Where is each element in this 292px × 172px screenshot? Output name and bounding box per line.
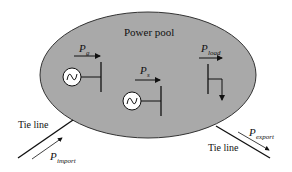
pexport-symbol: P (248, 126, 256, 138)
pload-subscript: load (208, 49, 221, 57)
tie-line-label: Tie line (208, 142, 239, 153)
pexport-subscript: export (256, 133, 275, 141)
pimport-symbol: P (49, 150, 57, 162)
tie-line-export: Tie line P export (208, 126, 275, 158)
pool-label: Power pool (124, 26, 174, 38)
tie-line-label: Tie line (18, 119, 49, 130)
pimport-subscript: import (57, 157, 77, 165)
pg-symbol: P (78, 42, 86, 54)
tie-line-import: Tie line P import (18, 119, 77, 165)
power-pool-diagram: Power pool P g P s P load Tie line P imp… (0, 0, 292, 172)
ps-subscript: s (147, 71, 150, 79)
ps-symbol: P (139, 64, 147, 76)
pload-symbol: P (200, 42, 208, 54)
